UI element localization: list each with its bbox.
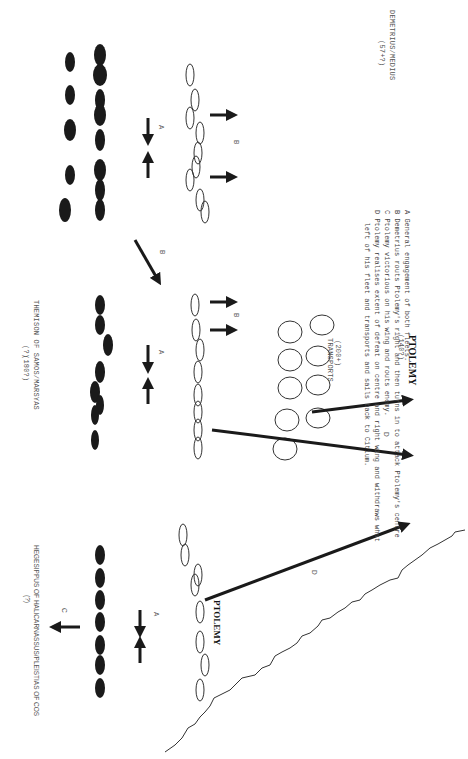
coastline	[165, 530, 465, 752]
ptolemy-centre	[191, 294, 204, 459]
arrow-label-b-top: B	[233, 140, 240, 144]
total-count: (180?)	[22, 355, 30, 381]
squadron-label-demetrius: DEMETRIUS/MEDIUS	[388, 10, 396, 80]
arrow-label-b-middle: B	[233, 313, 240, 317]
arrow-label-d-bottom: D	[311, 570, 318, 575]
legend-item-b: B Demetrius routs Ptolemy's right and th…	[392, 210, 402, 542]
squadron-count-hegesippus: (?)	[24, 595, 31, 603]
ptolemy-left-wing	[179, 524, 209, 701]
arrow-a-top	[135, 115, 232, 280]
ptolemy-wing-label: PTOLEMY	[212, 600, 222, 645]
squadron-count-themison: (?)	[22, 345, 30, 358]
arrow-label-c: C	[61, 608, 68, 613]
themison-squadron	[90, 295, 113, 450]
demetrius-squadron	[59, 44, 107, 222]
arrow-label-a-top: A	[158, 125, 165, 129]
transports-count: (200+)	[334, 340, 342, 366]
arrows-bottom	[55, 525, 405, 663]
arrow-label-a-middle: A	[158, 350, 165, 354]
squadron-count-demetrius: (57+?)	[378, 40, 386, 66]
legend-item-d-cont: left of his fleet and transports and sai…	[362, 210, 372, 542]
ptolemy-right-wing	[186, 64, 209, 223]
legend-item-c: C Ptolemy victorious on his wing and rou…	[382, 210, 392, 542]
legend: A General engagement of both fleets. B D…	[362, 210, 412, 542]
legend-item-d: D Ptolemy realises extent of defeat on c…	[372, 210, 382, 542]
hegesippus-squadron	[95, 545, 105, 698]
squadron-label-hegesippus: HEGESIPPUS OF HALICARNASSUS/PLEISTIAS OF…	[33, 545, 40, 716]
arrow-label-b-turn: B	[159, 250, 166, 254]
arrow-label-a-bottom: A	[153, 612, 160, 616]
legend-item-a: A General engagement of both fleets.	[402, 210, 412, 542]
transports-label: TRANSPORTS	[326, 338, 334, 382]
squadron-label-themison: THEMISON OF SAMOS/MARSYAS	[32, 300, 40, 410]
